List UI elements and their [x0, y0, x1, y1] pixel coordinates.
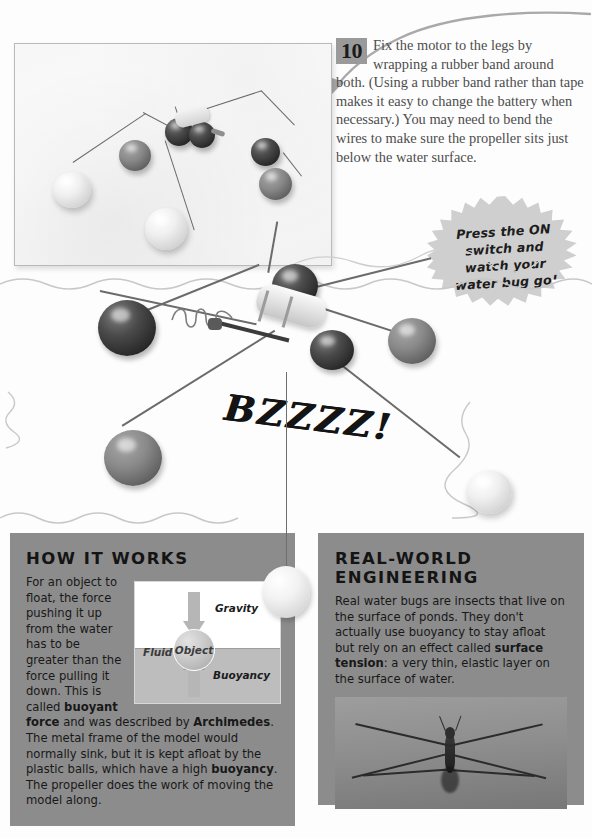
float-ball-dark	[189, 122, 215, 148]
water-strider-photo	[335, 697, 567, 809]
buoyancy-diagram: Object Gravity Buoyancy Fluid	[134, 581, 281, 704]
float-ball-light	[145, 208, 187, 250]
float-ball-mid	[388, 318, 436, 364]
float-ball-light	[53, 172, 91, 208]
diagram-label-fluid: Fluid	[143, 646, 172, 658]
step-10-block: 10 Fix the motor to the legs by wrapping…	[336, 36, 586, 166]
propeller	[208, 318, 222, 330]
step-number-badge: 10	[336, 38, 367, 64]
diagram-label-buoyancy: Buoyancy	[213, 669, 270, 681]
strider-reflection	[441, 767, 459, 793]
step-instruction-text: Fix the motor to the legs by wrapping a …	[336, 36, 586, 166]
float-ball-light	[262, 566, 310, 618]
strider-antenna	[439, 715, 446, 730]
coiled-wire	[170, 300, 240, 336]
step-photo-water-bug-model	[14, 43, 332, 266]
strider-head	[445, 727, 455, 739]
real-world-engineering-panel: REAL-WORLD ENGINEERING Real water bugs a…	[318, 533, 584, 805]
water-ripple-line	[0, 390, 46, 450]
float-ball-mid	[104, 430, 162, 486]
float-ball-mid	[259, 168, 292, 200]
diagram-label-gravity: Gravity	[215, 602, 258, 614]
real-world-heading: REAL-WORLD ENGINEERING	[335, 549, 568, 587]
hiw-text-2: and was described by	[59, 715, 193, 729]
hiw-text-1: For an object to float, the force pushin…	[26, 575, 121, 714]
sound-effect-text: BZZZZ!	[222, 386, 395, 448]
float-ball-dark	[251, 138, 280, 166]
hiw-bold-buoyancy: buoyancy	[211, 762, 274, 776]
water-ripple-line	[290, 236, 550, 276]
float-ball-mid	[119, 140, 151, 171]
bug-head	[310, 330, 354, 370]
how-it-works-heading: HOW IT WORKS	[26, 549, 281, 568]
float-ball-light	[466, 470, 512, 514]
strider-antenna	[455, 715, 462, 730]
hiw-bold-archimedes: Archimedes	[193, 715, 270, 729]
diagram-object-circle: Object	[173, 629, 215, 671]
water-ripple-line	[0, 500, 260, 530]
strider-leg	[449, 723, 543, 746]
float-ball-dark	[98, 300, 156, 356]
how-it-works-panel: HOW IT WORKS Object Gravity Buoyancy Flu…	[10, 533, 295, 826]
page-root: 10 Fix the motor to the legs by wrapping…	[0, 0, 592, 838]
diagram-label-object: Object	[175, 644, 213, 656]
real-world-body: Real water bugs are insects that live on…	[335, 594, 568, 688]
strider-leg	[355, 723, 449, 746]
wire-leg	[286, 372, 287, 570]
